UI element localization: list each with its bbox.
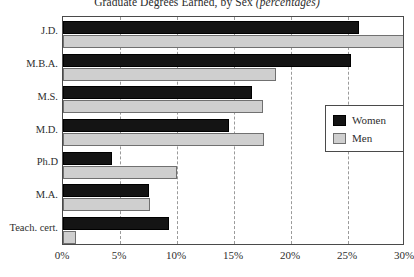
bar-women (63, 86, 252, 99)
bar-group (63, 213, 403, 245)
chart-title-main: Graduate Degrees Earned, by Sex (94, 0, 256, 8)
y-axis-label: Ph.D (0, 156, 58, 167)
x-axis-label: 10% (166, 249, 186, 261)
bar-men (63, 166, 177, 179)
legend-item-men: Men (333, 129, 403, 147)
bar-men (63, 133, 264, 146)
y-axis-labels: J.D.M.B.A.M.S.M.D.Ph.DM.A.Teach. cert. (0, 16, 58, 245)
bar-women (63, 119, 229, 132)
bar-women (63, 54, 351, 67)
legend-swatch-men-icon (333, 133, 346, 144)
x-axis-label: 15% (223, 249, 243, 261)
legend-item-women: Women (333, 111, 403, 129)
y-axis-label: M.D. (0, 124, 58, 135)
bar-men (63, 100, 263, 113)
y-axis-label: Teach. cert. (0, 222, 58, 233)
legend: Women Men (325, 105, 404, 152)
bar-men (63, 35, 404, 48)
chart-title: Graduate Degrees Earned, by Sex (percent… (0, 0, 414, 8)
legend-label-men: Men (352, 132, 372, 144)
bar-women (63, 152, 112, 165)
bar-men (63, 198, 150, 211)
bar-women (63, 21, 359, 34)
bar-men (63, 68, 276, 81)
bar-men (63, 231, 76, 244)
legend-label-women: Women (352, 114, 386, 126)
y-axis-label: M.S. (0, 91, 58, 102)
bar-women (63, 184, 149, 197)
bar-group (63, 17, 403, 50)
x-axis-label: 30% (394, 249, 414, 261)
bar-women (63, 217, 169, 230)
chart-title-italic: (percentages) (256, 0, 320, 8)
x-axis-labels: 0%5%10%15%20%25%30% (0, 249, 414, 269)
x-axis-label: 20% (280, 249, 300, 261)
y-axis-label: M.B.A. (0, 58, 58, 69)
bar-group (63, 148, 403, 181)
x-axis-label: 0% (55, 249, 70, 261)
x-axis-label: 25% (337, 249, 357, 261)
bar-group (63, 181, 403, 214)
chart-container: Graduate Degrees Earned, by Sex (percent… (0, 0, 414, 277)
y-axis-label: M.A. (0, 189, 58, 200)
bar-group (63, 50, 403, 83)
x-axis-label: 5% (112, 249, 127, 261)
legend-swatch-women-icon (333, 115, 346, 126)
y-axis-label: J.D. (0, 25, 58, 36)
